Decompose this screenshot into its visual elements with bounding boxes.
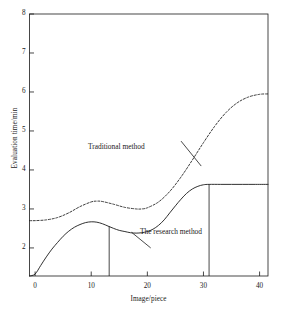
plot-frame xyxy=(30,14,269,276)
y-tick-label: 8 xyxy=(8,9,26,17)
x-tick-label: 30 xyxy=(191,282,215,290)
y-tick-label: 6 xyxy=(8,87,26,95)
annotation-traditional-method: Traditional method xyxy=(88,142,145,151)
y-tick-label: 4 xyxy=(8,165,26,173)
x-axis-title: Image/piece xyxy=(29,295,268,303)
annotation-research-method: The research method xyxy=(140,227,202,236)
x-tick-label: 20 xyxy=(135,282,159,290)
x-tick-label: 40 xyxy=(248,282,272,290)
y-tick-label: 7 xyxy=(8,48,26,56)
y-tick-label: 5 xyxy=(8,126,26,134)
chart-figure: Evaluation time/min Image/piece 2345678 … xyxy=(0,0,282,321)
y-tick-label: 3 xyxy=(8,204,26,212)
y-tick-label: 2 xyxy=(8,243,26,251)
x-tick-label: 10 xyxy=(79,282,103,290)
plot-area xyxy=(0,0,282,321)
data-series xyxy=(30,94,269,276)
x-tick-label: 0 xyxy=(23,282,47,290)
